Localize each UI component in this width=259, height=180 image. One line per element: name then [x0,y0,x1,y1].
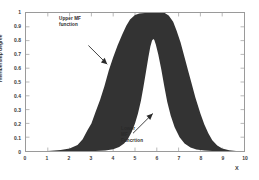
y-tick-label: 0 [8,150,21,155]
x-tick-label: 6 [156,156,159,161]
y-tick-label: 0.8 [8,38,21,43]
x-tick-label: 3 [90,156,93,161]
y-tick-label: 1 [8,10,21,15]
upper-mf-annotation: Upper MF function [59,16,81,28]
y-tick-label: 0.1 [8,136,21,141]
x-tick-label: 2 [68,156,71,161]
y-tick-label: 0.3 [8,108,21,113]
y-tick-label: 0.5 [8,80,21,85]
x-tick-label: 8 [200,156,203,161]
y-axis-label: membership degree [0,34,3,82]
x-tick-label: 4 [112,156,115,161]
x-tick-label: 1 [46,156,49,161]
y-tick-label: 0.4 [8,94,21,99]
figure-container: membership degree 1 0.9 0.8 0.7 0.6 0.5 … [0,0,259,180]
y-tick-label: 0.2 [8,122,21,127]
x-tick-label: 0 [24,156,27,161]
x-tick-label: 7 [178,156,181,161]
x-tick-label: 9 [222,156,225,161]
upper-mf-leader-arrow [88,46,107,65]
lower-mf-annotation: Lower MF Funcrtion [121,126,143,145]
y-tick-label: 0.9 [8,24,21,29]
y-tick-label: 0.6 [8,66,21,71]
x-tick-label: 10 [242,156,248,161]
x-axis-label: X [235,166,239,172]
x-tick-label: 5 [134,156,137,161]
y-tick-label: 0.7 [8,52,21,57]
